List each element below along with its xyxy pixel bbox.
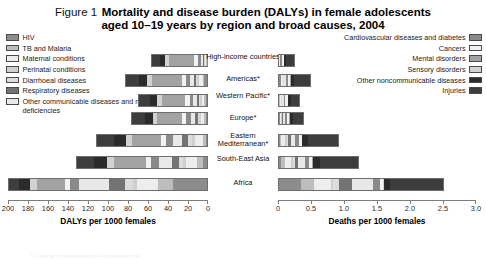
bar-segment: [157, 113, 181, 124]
footnote: * Low- and middle-income countries only: [30, 252, 141, 259]
bar-segment: [293, 113, 303, 124]
legend-swatch-icon: [6, 34, 19, 41]
bar-segment: [169, 55, 194, 66]
axis-tick-label: 120: [82, 204, 94, 213]
axis-tick-label: 80: [124, 204, 132, 213]
bar-segment: [152, 55, 160, 66]
axis-title-deaths: Deaths per 1000 females: [278, 216, 476, 226]
region-label: South-East Asia: [206, 155, 280, 163]
bar-segment: [291, 95, 299, 106]
bar-dalys: [76, 156, 208, 169]
bar-deaths: [278, 112, 304, 125]
axis-title-dalys: DALYs per 1000 females: [8, 216, 208, 226]
bar-segment: [151, 157, 159, 168]
bar-segment: [172, 157, 179, 168]
region-label: Americas*: [206, 75, 280, 83]
axis-tick-label: 160: [42, 204, 54, 213]
legend-item[interactable]: HIV: [6, 33, 176, 42]
bar-segment: [19, 179, 29, 190]
bar-dalys: [125, 74, 208, 87]
legend-item-label: Cardiovascular diseases and diabetes: [344, 33, 465, 42]
panel-dalys: [8, 48, 208, 200]
page-title: Figure 1 Mortality and disease burden (D…: [0, 4, 486, 32]
axis-tick-label: 0: [206, 204, 210, 213]
axis-tick-label: 180: [22, 204, 34, 213]
bar-deaths: [278, 178, 444, 191]
legend-swatch-icon: [469, 34, 482, 41]
bar-segment: [97, 135, 114, 146]
bar-segment: [139, 95, 150, 106]
bar-segment: [320, 157, 358, 168]
region-label: Africa: [206, 179, 280, 187]
legend-item[interactable]: Cardiovascular diseases and diabetes: [316, 33, 482, 42]
bar-deaths: [278, 54, 295, 67]
bar-segment: [308, 135, 338, 146]
bar-dalys: [96, 134, 208, 147]
axis-tick-label: 3.0: [471, 204, 481, 213]
axis-tick-label: 60: [144, 204, 152, 213]
bar-segment: [195, 135, 203, 146]
bar-segment: [173, 135, 183, 146]
bar-segment: [286, 55, 294, 66]
region-label: Eastern Mediterranean*: [206, 132, 280, 148]
region-label-column: High-income countriesAmericas*Western Pa…: [206, 48, 280, 200]
region-label: Western Pacific*: [206, 92, 280, 100]
bar-dalys: [8, 178, 208, 191]
axis-tick-label: 2.5: [438, 204, 448, 213]
axis-tick-label: 0.5: [306, 204, 316, 213]
bar-segment: [37, 179, 65, 190]
region-label: High-income countries: [206, 53, 280, 61]
bar-deaths: [278, 94, 300, 107]
bar-dalys: [131, 112, 208, 125]
bar-dalys: [138, 94, 208, 107]
bar-segment: [137, 179, 158, 190]
bar-segment: [152, 75, 182, 86]
axis-tick-label: 20: [184, 204, 192, 213]
axis-tick-label: 1.0: [339, 204, 349, 213]
bar-segment: [126, 75, 139, 86]
bar-segment: [294, 75, 310, 86]
axis-deaths: Deaths per 1000 females 00.51.01.52.02.5…: [278, 200, 476, 220]
bar-segment: [9, 179, 19, 190]
bar-segment: [79, 179, 109, 190]
bar-segment: [390, 179, 443, 190]
axis-tick-label: 40: [164, 204, 172, 213]
bar-segment: [125, 179, 133, 190]
figure-title-line2: aged 10–19 years by region and broad cau…: [0, 19, 486, 32]
figure-number: Figure 1: [55, 6, 97, 18]
bar-segment: [352, 179, 374, 190]
bar-segment: [139, 75, 147, 86]
bar-segment: [301, 179, 314, 190]
bar-segment: [339, 179, 351, 190]
chart-area: High-income countriesAmericas*Western Pa…: [0, 48, 486, 223]
bar-segment: [159, 157, 172, 168]
bar-segment: [114, 135, 126, 146]
bar-segment: [94, 157, 107, 168]
bar-segment: [158, 179, 174, 190]
bar-segment: [166, 135, 173, 146]
bar-deaths: [278, 156, 359, 169]
bar-deaths: [278, 74, 311, 87]
axis-tick-label: 2.0: [405, 204, 415, 213]
bar-segment: [145, 113, 153, 124]
bar-dalys: [151, 54, 208, 67]
bar-segment: [107, 157, 114, 168]
bar-segment: [384, 179, 391, 190]
bar-segment: [313, 157, 320, 168]
bar-segment: [77, 157, 94, 168]
bar-segment: [279, 179, 301, 190]
axis-tick-label: 140: [62, 204, 74, 213]
bar-segment: [30, 179, 37, 190]
axis-dalys: DALYs per 1000 females 20018016014012010…: [8, 200, 208, 220]
bar-segment: [132, 113, 145, 124]
bar-segment: [114, 157, 147, 168]
bar-segment: [70, 179, 79, 190]
axis-tick-label: 1.5: [372, 204, 382, 213]
region-label: Europe*: [206, 114, 280, 122]
legend-item-label: HIV: [23, 33, 35, 42]
bar-segment: [109, 179, 125, 190]
bar-segment: [314, 179, 332, 190]
figure-title-line1: Mortality and disease burden (DALYs) in …: [102, 6, 431, 18]
bar-segment: [186, 157, 196, 168]
bar-segment: [132, 135, 161, 146]
